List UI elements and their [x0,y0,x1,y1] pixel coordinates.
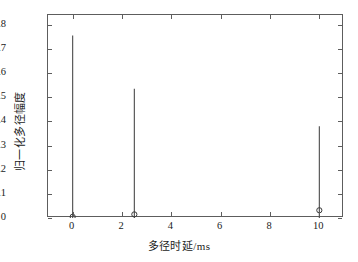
y-axis-tick-label: 0.8 [0,19,6,30]
x-axis-tick-label: 2 [118,221,123,232]
y-axis-tick [48,73,52,74]
x-axis-tick [171,212,172,216]
y-axis-tick-right [338,121,342,122]
y-axis-tick-right [338,194,342,195]
x-axis-tick [221,212,222,216]
y-axis-tick-label: 0.4 [0,115,6,126]
y-axis-tick [48,146,52,147]
x-axis-tick-label: 4 [168,221,173,232]
y-axis-tick [48,25,52,26]
figure-canvas: 归一化多径幅度 00.10.20.30.40.50.60.70.8 024681… [0,0,358,262]
x-axis-tick-top [270,15,271,19]
y-axis-tick [48,121,52,122]
x-axis-tick [319,212,320,216]
x-axis-tick-top [73,15,74,19]
x-axis-tick [270,212,271,216]
x-axis-tick [122,212,123,216]
y-axis-tick-label: 0.6 [0,67,6,78]
y-axis-tick-label: 0.7 [0,43,6,54]
x-axis-tick-top [221,15,222,19]
y-axis-tick-right [338,49,342,50]
y-axis-title: 归一化多径幅度 [12,0,26,262]
y-axis-tick-label: 0.5 [0,91,6,102]
x-axis-title: 多径时延/ms [0,237,358,253]
y-axis-tick [48,218,52,219]
y-axis-tick-right [338,218,342,219]
stem-lines-group [73,36,320,218]
y-axis-tick [48,49,52,50]
y-axis-tick [48,97,52,98]
y-axis-tick-right [338,97,342,98]
y-axis-tick [48,170,52,171]
y-axis-tick-right [338,146,342,147]
y-axis-tick-label: 0.2 [0,164,6,175]
plot-area [47,14,343,217]
y-axis-tick-right [338,73,342,74]
stem-markers-group [70,208,322,218]
stem-plot-series [48,15,344,218]
x-axis-tick-label: 6 [217,221,222,232]
y-axis-tick-label: 0 [1,212,6,223]
x-axis-tick [73,212,74,216]
x-axis-tick-label: 0 [69,221,74,232]
y-axis-tick-label: 0.1 [0,188,6,199]
y-axis-tick-right [338,25,342,26]
x-axis-tick-top [319,15,320,19]
y-axis-title-text: 归一化多径幅度 [11,91,27,171]
y-axis-tick-right [338,170,342,171]
x-axis-tick-label: 10 [313,221,324,232]
x-axis-tick-top [171,15,172,19]
y-axis-tick [48,194,52,195]
x-axis-tick-label: 8 [266,221,271,232]
y-axis-tick-label: 0.3 [0,140,6,151]
x-axis-tick-top [122,15,123,19]
